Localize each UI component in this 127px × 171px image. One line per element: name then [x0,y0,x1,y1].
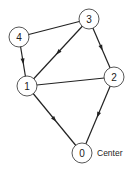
arrow-icon [95,111,101,118]
node-3: 3 [79,9,99,29]
edge-1-2 [27,77,114,86]
node-label: 2 [111,72,117,83]
node-label: 4 [16,32,22,43]
node-label: 3 [86,14,92,25]
arrow-icon [98,44,104,51]
center-label: Center [97,148,123,158]
node-label: 0 [79,148,85,159]
node-label: 1 [24,81,30,92]
node-0: 0 [72,143,92,163]
node-1: 1 [17,76,37,96]
edge-4-3 [19,19,89,37]
nodes-layer: 01234 [9,9,124,163]
graph-canvas: 01234 Center [0,0,127,171]
node-2: 2 [104,67,124,87]
node-4: 4 [9,27,29,47]
